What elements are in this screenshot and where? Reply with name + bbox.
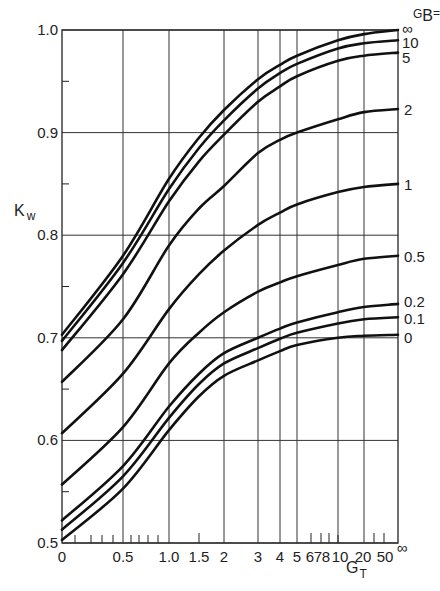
y-tick-label: 0.7 xyxy=(37,329,58,346)
curve-label-gb-0: 0 xyxy=(404,329,412,346)
y-tick-label: 0.5 xyxy=(37,534,58,551)
x-tick-label: 0.5 xyxy=(113,548,134,565)
y-tick-label: 1.0 xyxy=(37,21,58,38)
curve-label-gb-0.1: 0.1 xyxy=(404,310,425,327)
x-tick-label: 2 xyxy=(220,548,228,565)
y-axis-title: Kw xyxy=(14,202,36,223)
x-tick-label: 50 xyxy=(377,548,394,565)
y-tick-label: 0.8 xyxy=(37,226,58,243)
curve-label-gb-2: 2 xyxy=(404,101,412,118)
x-tick-label: 1.5 xyxy=(189,548,210,565)
kw-chart: 0.50.60.70.80.91.000.51.01.5234567810205… xyxy=(0,0,440,591)
y-tick-label: 0.9 xyxy=(37,124,58,141)
x-tick-label: 1.0 xyxy=(159,548,180,565)
curve-label-gb-0.5: 0.5 xyxy=(404,248,425,265)
curve-label-gb-0.2: 0.2 xyxy=(404,293,425,310)
x-tick-label: 8 xyxy=(322,548,330,565)
curves xyxy=(62,30,398,540)
tick-labels: 0.50.60.70.80.91.000.51.01.5234567810205… xyxy=(37,21,408,565)
x-tick-label: 5 xyxy=(293,548,301,565)
curve-gb-5 xyxy=(62,53,398,351)
y-tick-label: 0.6 xyxy=(37,431,58,448)
x-tick-label-infinity: ∞ xyxy=(397,539,408,556)
legend-title: GB= xyxy=(413,6,440,24)
curve-label-gb-5: 5 xyxy=(402,49,410,66)
x-tick-label: 3 xyxy=(254,548,262,565)
x-tick-label: 0 xyxy=(58,548,66,565)
curve-labels: ∞105210.50.20.10 xyxy=(402,20,425,346)
curve-label-gb-1: 1 xyxy=(404,176,412,193)
x-tick-label: 4 xyxy=(276,548,284,565)
